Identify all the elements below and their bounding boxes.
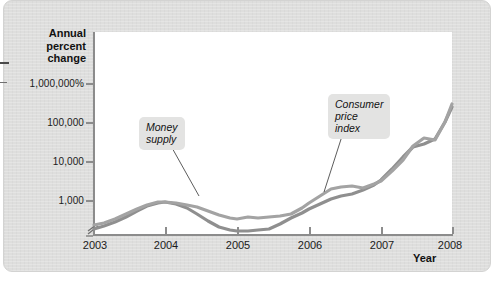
annotation-money-supply: Money supply bbox=[139, 117, 185, 150]
consumer-price-index-leader-line bbox=[324, 133, 343, 192]
annotation-consumer-price-index: Consumer price index bbox=[328, 94, 390, 139]
figure-root: Annual percent change 1,000,000% 100,000… bbox=[0, 0, 494, 286]
money-supply-leader-line bbox=[171, 146, 199, 196]
chart-lines bbox=[0, 0, 494, 286]
